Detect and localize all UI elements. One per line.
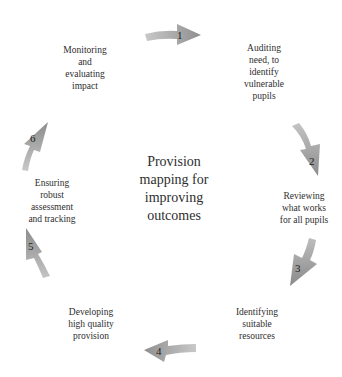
- arrow-4-number: 4: [156, 345, 162, 357]
- arrow-1-number: 1: [177, 29, 183, 41]
- step-5-label: Ensuring robust assessment and tracking: [14, 177, 90, 225]
- arrow-2-number: 2: [309, 155, 315, 167]
- step-4-label: Developing high quality provision: [54, 306, 128, 342]
- arrow-3-number: 3: [295, 262, 301, 274]
- diagram-title: Provision mapping for improving outcomes: [118, 153, 230, 225]
- step-3-label: Identifying suitable resources: [222, 306, 292, 342]
- arrow-4-icon: 4: [142, 338, 198, 364]
- arrow-5-number: 5: [28, 240, 34, 252]
- step-1-label: Auditing need, to identify vulnerable pu…: [228, 42, 300, 102]
- arrow-2-icon: 2: [290, 122, 326, 180]
- arrow-5-icon: 5: [18, 226, 54, 280]
- step-2-label: Reviewing what works for all pupils: [266, 190, 342, 226]
- step-6-label: Monitoring and evaluating impact: [50, 44, 120, 92]
- arrow-6-number: 6: [30, 132, 36, 144]
- arrow-3-icon: 3: [284, 236, 320, 290]
- arrow-1-icon: 1: [143, 22, 205, 48]
- arrow-6-icon: 6: [18, 118, 52, 174]
